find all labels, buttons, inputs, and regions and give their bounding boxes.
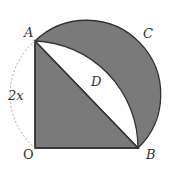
label-2x: 2x <box>8 89 24 102</box>
label-B: B <box>146 148 156 161</box>
geometry-diagram: A C D 2x O B <box>0 0 173 169</box>
label-A: A <box>24 26 33 39</box>
label-D: D <box>91 75 101 88</box>
label-O: O <box>23 148 34 161</box>
label-C: C <box>143 27 153 40</box>
